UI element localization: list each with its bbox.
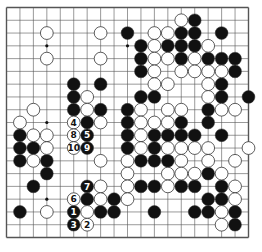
black-stone[interactable]: [202, 167, 215, 180]
white-stone[interactable]: [40, 142, 53, 155]
black-stone[interactable]: [242, 91, 255, 104]
white-stone[interactable]: [175, 103, 188, 116]
white-stone[interactable]: [215, 206, 228, 219]
black-stone[interactable]: [202, 103, 215, 116]
black-stone[interactable]: [94, 103, 107, 116]
white-stone[interactable]: [121, 193, 134, 206]
white-stone[interactable]: [81, 206, 94, 219]
black-stone[interactable]: [67, 78, 80, 91]
white-stone[interactable]: [135, 116, 148, 129]
black-stone[interactable]: [175, 180, 188, 193]
black-stone[interactable]: [14, 206, 27, 219]
black-stone[interactable]: [229, 206, 242, 219]
white-stone[interactable]: [27, 129, 40, 142]
black-stone[interactable]: [148, 180, 161, 193]
black-stone[interactable]: [40, 167, 53, 180]
black-stone[interactable]: [148, 91, 161, 104]
white-stone[interactable]: [188, 52, 201, 65]
black-stone[interactable]: [148, 142, 161, 155]
white-stone[interactable]: 10: [67, 142, 80, 155]
white-stone[interactable]: [148, 116, 161, 129]
white-stone[interactable]: [229, 180, 242, 193]
white-stone[interactable]: [161, 142, 174, 155]
white-stone[interactable]: [94, 193, 107, 206]
black-stone[interactable]: [215, 180, 228, 193]
white-stone[interactable]: [148, 78, 161, 91]
white-stone[interactable]: [121, 167, 134, 180]
white-stone[interactable]: [161, 52, 174, 65]
white-stone[interactable]: 2: [81, 218, 94, 231]
white-stone[interactable]: [202, 154, 215, 167]
white-stone[interactable]: [161, 180, 174, 193]
white-stone[interactable]: [188, 65, 201, 78]
black-stone[interactable]: [175, 129, 188, 142]
black-stone[interactable]: [108, 193, 121, 206]
white-stone[interactable]: [175, 154, 188, 167]
black-stone[interactable]: [202, 193, 215, 206]
white-stone[interactable]: [148, 52, 161, 65]
white-stone[interactable]: [81, 103, 94, 116]
white-stone[interactable]: [202, 39, 215, 52]
white-stone[interactable]: [40, 129, 53, 142]
black-stone[interactable]: [215, 129, 228, 142]
black-stone[interactable]: [215, 52, 228, 65]
white-stone[interactable]: [175, 14, 188, 27]
black-stone[interactable]: [81, 116, 94, 129]
black-stone[interactable]: [148, 154, 161, 167]
white-stone[interactable]: [94, 116, 107, 129]
black-stone[interactable]: [215, 78, 228, 91]
white-stone[interactable]: [202, 65, 215, 78]
white-stone[interactable]: [27, 103, 40, 116]
white-stone[interactable]: [94, 154, 107, 167]
black-stone[interactable]: [135, 154, 148, 167]
black-stone[interactable]: [215, 91, 228, 104]
black-stone[interactable]: [202, 206, 215, 219]
black-stone[interactable]: [175, 39, 188, 52]
black-stone[interactable]: [14, 154, 27, 167]
black-stone[interactable]: [135, 39, 148, 52]
white-stone[interactable]: [94, 180, 107, 193]
go-board[interactable]: 12345678910: [0, 0, 262, 252]
black-stone[interactable]: [14, 129, 27, 142]
white-stone[interactable]: [40, 27, 53, 40]
white-stone[interactable]: [161, 78, 174, 91]
black-stone[interactable]: [108, 206, 121, 219]
black-stone[interactable]: 9: [81, 142, 94, 155]
white-stone[interactable]: [121, 154, 134, 167]
black-stone[interactable]: [202, 116, 215, 129]
black-stone[interactable]: [161, 154, 174, 167]
black-stone[interactable]: [175, 116, 188, 129]
white-stone[interactable]: [135, 103, 148, 116]
white-stone[interactable]: [135, 129, 148, 142]
white-stone[interactable]: [215, 65, 228, 78]
black-stone[interactable]: [121, 142, 134, 155]
black-stone[interactable]: [27, 142, 40, 155]
black-stone[interactable]: [229, 65, 242, 78]
white-stone[interactable]: [188, 167, 201, 180]
black-stone[interactable]: [229, 218, 242, 231]
black-stone[interactable]: [148, 129, 161, 142]
black-stone[interactable]: [188, 180, 201, 193]
white-stone[interactable]: [175, 142, 188, 155]
white-stone[interactable]: [215, 167, 228, 180]
white-stone[interactable]: [94, 52, 107, 65]
black-stone[interactable]: [67, 103, 80, 116]
black-stone[interactable]: [94, 78, 107, 91]
white-stone[interactable]: [135, 142, 148, 155]
white-stone[interactable]: 8: [67, 129, 80, 142]
white-stone[interactable]: [175, 65, 188, 78]
white-stone[interactable]: [202, 91, 215, 104]
white-stone[interactable]: [161, 116, 174, 129]
white-stone[interactable]: [242, 142, 255, 155]
black-stone[interactable]: [135, 52, 148, 65]
white-stone[interactable]: [161, 167, 174, 180]
black-stone[interactable]: [135, 91, 148, 104]
white-stone[interactable]: [202, 142, 215, 155]
black-stone[interactable]: [40, 154, 53, 167]
white-stone[interactable]: [175, 167, 188, 180]
black-stone[interactable]: 1: [67, 206, 80, 219]
black-stone[interactable]: [188, 27, 201, 40]
black-stone[interactable]: [121, 129, 134, 142]
black-stone[interactable]: [135, 65, 148, 78]
white-stone[interactable]: [161, 103, 174, 116]
